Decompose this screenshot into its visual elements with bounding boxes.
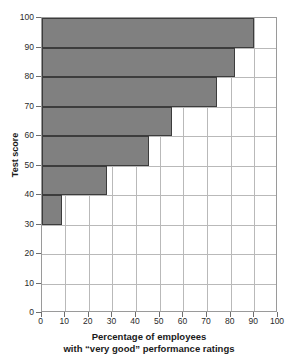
x-axis-tick-mark bbox=[135, 312, 136, 317]
y-axis-tick-mark bbox=[36, 283, 41, 284]
x-axis-tick-label: 80 bbox=[225, 317, 234, 326]
y-axis-tick-label: 10 bbox=[25, 278, 34, 287]
bar bbox=[42, 166, 107, 196]
x-axis-tick-label: 10 bbox=[59, 317, 68, 326]
y-axis-tick-mark bbox=[36, 47, 41, 48]
x-axis-tick-label: 60 bbox=[178, 317, 187, 326]
x-axis-tick-label: 90 bbox=[249, 317, 258, 326]
gridline-horizontal bbox=[42, 284, 277, 285]
y-axis-tick-mark bbox=[36, 253, 41, 254]
bar bbox=[42, 136, 150, 166]
x-axis-tick-label: 100 bbox=[270, 317, 284, 326]
y-axis-tick-mark bbox=[36, 194, 41, 195]
y-axis-tick-label: 100 bbox=[20, 13, 34, 22]
bar bbox=[42, 107, 172, 137]
bar-chart: 0102030405060708090100 01020304050607080… bbox=[0, 0, 298, 363]
y-axis-tick-mark bbox=[36, 76, 41, 77]
y-axis-tick-label: 40 bbox=[25, 190, 34, 199]
x-axis-tick-mark bbox=[253, 312, 254, 317]
y-axis-tick-label: 20 bbox=[25, 249, 34, 258]
x-axis-tick-mark bbox=[111, 312, 112, 317]
y-axis-tick-label: 30 bbox=[25, 219, 34, 228]
x-axis-tick-mark bbox=[88, 312, 89, 317]
y-axis-tick-mark bbox=[36, 224, 41, 225]
x-axis-tick-mark bbox=[159, 312, 160, 317]
bar bbox=[42, 48, 236, 78]
x-axis-tick-label: 30 bbox=[107, 317, 116, 326]
bar bbox=[42, 18, 255, 48]
x-axis-tick-label: 40 bbox=[130, 317, 139, 326]
y-axis-title: Test score bbox=[10, 120, 20, 190]
y-axis-tick-label: 50 bbox=[25, 160, 34, 169]
y-axis-tick-mark bbox=[36, 165, 41, 166]
x-axis-tick-label: 20 bbox=[83, 317, 92, 326]
x-axis-tick-mark bbox=[182, 312, 183, 317]
x-axis-title-line-2: with “very good” performance ratings bbox=[0, 343, 298, 355]
y-axis-tick-label: 90 bbox=[25, 42, 34, 51]
x-axis-title: Percentage of employees with “very good”… bbox=[0, 331, 298, 355]
x-axis-tick-label: 70 bbox=[201, 317, 210, 326]
x-axis-tick-mark bbox=[277, 312, 278, 317]
bar bbox=[42, 195, 62, 225]
x-axis-tick-mark bbox=[64, 312, 65, 317]
x-axis-title-line-1: Percentage of employees bbox=[0, 331, 298, 343]
x-axis-tick-mark bbox=[41, 312, 42, 317]
y-axis-tick-mark bbox=[36, 135, 41, 136]
y-axis-tick-label: 70 bbox=[25, 101, 34, 110]
x-axis-tick-mark bbox=[206, 312, 207, 317]
gridline-horizontal bbox=[42, 195, 277, 196]
y-axis-tick-label: 60 bbox=[25, 131, 34, 140]
x-axis-tick-label: 0 bbox=[38, 317, 43, 326]
x-axis-tick-mark bbox=[230, 312, 231, 317]
gridline-horizontal bbox=[42, 254, 277, 255]
y-axis-tick-mark bbox=[36, 106, 41, 107]
x-axis-tick-labels: 0102030405060708090100 bbox=[0, 317, 298, 329]
gridline-horizontal bbox=[42, 225, 277, 226]
x-axis-tick-label: 50 bbox=[154, 317, 163, 326]
plot-area bbox=[41, 17, 278, 312]
bar bbox=[42, 77, 217, 107]
gridline-vertical bbox=[254, 18, 255, 311]
y-axis-tick-label: 80 bbox=[25, 72, 34, 81]
y-axis-tick-label: 0 bbox=[29, 308, 34, 317]
y-axis-tick-mark bbox=[36, 17, 41, 18]
